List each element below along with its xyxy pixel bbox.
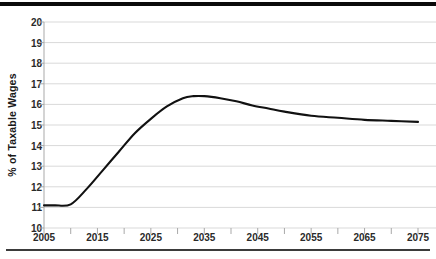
bottom-divider-rule	[6, 249, 430, 251]
data-series-line	[44, 96, 418, 206]
gridlines	[44, 22, 436, 228]
x-axis-minor-ticks	[39, 22, 418, 234]
chart-svg	[0, 0, 436, 259]
